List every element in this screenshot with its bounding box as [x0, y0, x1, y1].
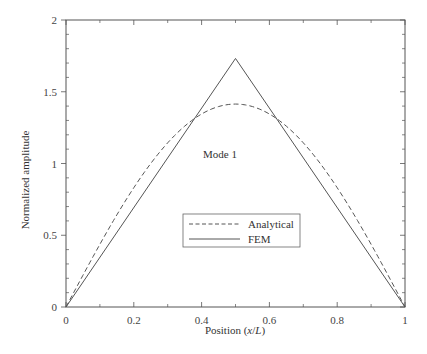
axes-frame: [66, 20, 405, 307]
legend-label-fem: FEM: [248, 233, 271, 245]
y-tick-label: 1: [52, 158, 58, 170]
y-tick-label: 0.5: [43, 229, 57, 241]
plot-frame: [66, 20, 405, 307]
x-axis-title: Position (x/L): [205, 324, 266, 337]
legend-label-analytical: Analytical: [248, 218, 294, 230]
legend: Analytical FEM: [183, 214, 300, 247]
series-analytical: [66, 104, 405, 307]
y-tick-label: 0: [52, 301, 58, 313]
series-layer: [66, 58, 405, 307]
chart: 00.20.40.60.8100.511.52 Position (x/L) N…: [0, 0, 427, 354]
series-fem: [66, 58, 405, 307]
x-tick-label: 0.2: [127, 314, 141, 326]
x-tick-label: 0.8: [330, 314, 344, 326]
y-axis-title: Normalized amplitude: [19, 131, 31, 230]
y-tick-label: 2: [52, 14, 58, 26]
x-tick-label: 0: [63, 314, 69, 326]
y-tick-label: 1.5: [43, 86, 57, 98]
x-tick-label: 1: [402, 314, 408, 326]
mode-annotation: Mode 1: [203, 148, 237, 160]
ticks: 00.20.40.60.8100.511.52: [43, 14, 408, 326]
